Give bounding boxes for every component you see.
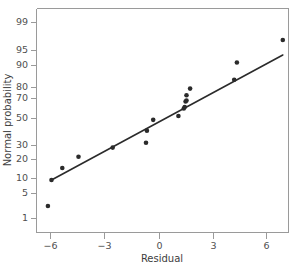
- x-axis-title: Residual: [141, 253, 183, 264]
- x-tick-label: 6: [263, 240, 269, 251]
- scatter-points-group: [46, 38, 286, 209]
- data-point: [182, 105, 187, 110]
- y-axis-title: Normal probability: [2, 74, 13, 167]
- data-point: [281, 38, 286, 43]
- data-point: [60, 166, 65, 171]
- x-tick-marks: [51, 233, 267, 239]
- y-tick-label: 30: [16, 139, 28, 150]
- data-point: [151, 118, 156, 123]
- normal-probability-plot: 99 95 90 80 70 50 30 20 10 5 1 −6 −3 0 3…: [0, 0, 296, 269]
- x-tick-label: 0: [156, 240, 162, 251]
- y-tick-label: 90: [16, 59, 28, 70]
- data-point: [235, 60, 240, 65]
- plot-canvas: 99 95 90 80 70 50 30 20 10 5 1 −6 −3 0 3…: [0, 0, 296, 269]
- y-tick-label: 50: [16, 112, 28, 123]
- x-tick-labels: −6 −3 0 3 6: [43, 240, 269, 251]
- data-point: [144, 141, 149, 146]
- x-tick-label: −6: [43, 240, 57, 251]
- data-point: [176, 114, 181, 119]
- data-point: [76, 154, 81, 159]
- y-tick-labels: 99 95 90 80 70 50 30 20 10 5 1: [16, 16, 28, 223]
- y-tick-label: 70: [16, 92, 28, 103]
- y-tick-label: 80: [16, 81, 28, 92]
- data-point: [46, 204, 51, 209]
- x-tick-label: 3: [210, 240, 216, 251]
- data-point: [110, 145, 115, 150]
- y-tick-marks: [31, 23, 37, 219]
- y-tick-label: 20: [16, 153, 28, 164]
- y-tick-label: 10: [16, 172, 28, 183]
- data-point: [188, 86, 193, 91]
- normal-reference-line: [52, 55, 283, 180]
- y-tick-label: 99: [16, 16, 28, 27]
- data-point: [184, 93, 189, 98]
- y-tick-label: 1: [22, 212, 28, 223]
- x-tick-label: −3: [97, 240, 111, 251]
- y-tick-label: 95: [16, 44, 28, 55]
- data-point: [184, 98, 189, 103]
- y-tick-label: 5: [22, 187, 28, 198]
- data-point: [145, 128, 150, 133]
- data-point: [49, 178, 54, 183]
- data-point: [232, 78, 237, 83]
